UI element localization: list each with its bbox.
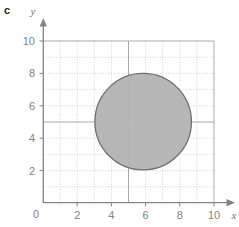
x-tick-label: 4 — [108, 209, 114, 221]
y-tick-label: 2 — [29, 165, 35, 177]
y-axis-tick-labels: 10 8 6 4 2 — [23, 35, 35, 177]
shaded-circle — [95, 73, 191, 169]
x-tick-label: 6 — [143, 209, 149, 221]
y-tick-label: 6 — [29, 100, 35, 112]
x-axis-tick-labels: 2 4 6 8 10 — [74, 209, 220, 221]
y-axis-label: y — [30, 5, 36, 17]
y-axis-arrowhead — [40, 18, 47, 27]
x-tick-label: 8 — [177, 209, 183, 221]
y-tick-label: 10 — [23, 35, 35, 47]
x-axis-label: x — [231, 209, 237, 221]
x-tick-label: 2 — [74, 209, 80, 221]
y-tick-label: 4 — [29, 132, 35, 144]
x-axis-arrowhead — [227, 199, 236, 206]
origin-label: 0 — [33, 208, 39, 220]
shaded-circle-region — [95, 73, 191, 169]
y-tick-label: 8 — [29, 67, 35, 79]
coordinate-grid-figure: 10 8 6 4 2 0 2 4 6 8 10 y x — [0, 0, 239, 227]
x-tick-label: 10 — [208, 209, 220, 221]
